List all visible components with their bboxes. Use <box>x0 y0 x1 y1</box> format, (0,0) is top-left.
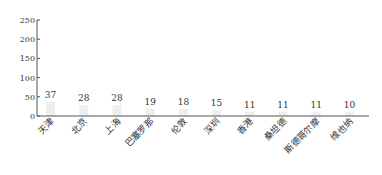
bar <box>312 112 321 116</box>
bar <box>79 105 88 116</box>
bar <box>146 109 155 116</box>
bar <box>212 110 221 116</box>
bar-value-label: 11 <box>310 100 321 110</box>
x-category-label: 斯德哥尔摩 <box>282 116 322 156</box>
x-category-label: 上海 <box>102 116 123 137</box>
bar-value-label: 37 <box>45 90 57 100</box>
x-category-label: 伦敦 <box>168 116 189 137</box>
bar-value-label: 15 <box>211 98 223 108</box>
bar <box>245 112 254 116</box>
bar <box>179 109 188 116</box>
x-category-label: 香港 <box>235 116 256 137</box>
x-category-label: 深圳 <box>202 116 222 136</box>
bar-value-label: 11 <box>277 100 288 110</box>
bar-value-label: 19 <box>144 97 156 107</box>
x-category-label: 北京 <box>69 116 90 137</box>
y-tick-label: 0 <box>30 112 35 121</box>
bar-value-label: 11 <box>244 100 255 110</box>
bar-value-label: 28 <box>111 93 123 103</box>
y-tick-label: 100 <box>20 74 35 83</box>
bar <box>345 112 354 116</box>
bar-value-label: 18 <box>178 97 190 107</box>
x-axis: 天津北京上海巴塞罗那伦敦深圳香港桑坦德斯德哥尔摩维也纳 <box>36 116 369 156</box>
bar-value-label: 10 <box>344 100 356 110</box>
x-category-label: 桑坦德 <box>262 116 289 143</box>
y-tick-label: 250 <box>20 16 35 25</box>
bar <box>279 112 288 116</box>
y-tick-label: 150 <box>20 54 35 63</box>
y-axis: 050100150200250 <box>20 16 40 121</box>
x-category-label: 维也纳 <box>328 116 355 143</box>
bar-value-label: 28 <box>78 93 90 103</box>
y-tick-label: 200 <box>20 35 35 44</box>
bar-chart: 050100150200250 37282819181511111110 天津北… <box>0 0 382 175</box>
x-category-label: 天津 <box>36 116 56 136</box>
y-tick-label: 50 <box>25 93 35 102</box>
bar <box>113 105 122 116</box>
x-category-label: 巴塞罗那 <box>122 116 155 149</box>
bar <box>46 102 55 116</box>
bars: 37282819181511111110 <box>45 90 356 116</box>
